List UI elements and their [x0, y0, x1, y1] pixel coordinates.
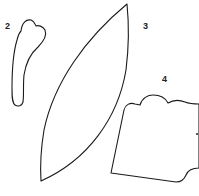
shape-4-outline	[111, 95, 199, 182]
shape-2: 2	[5, 20, 46, 106]
shape-4-label: 4	[162, 74, 167, 84]
diagram-canvas: 2 3 4	[0, 0, 199, 196]
shape-2-label: 2	[5, 21, 10, 31]
shape-3: 3	[41, 4, 148, 181]
shape-4: 4	[111, 74, 199, 182]
shape-2-outline	[12, 20, 46, 106]
registration-dot	[196, 133, 198, 135]
shape-3-label: 3	[143, 21, 148, 31]
